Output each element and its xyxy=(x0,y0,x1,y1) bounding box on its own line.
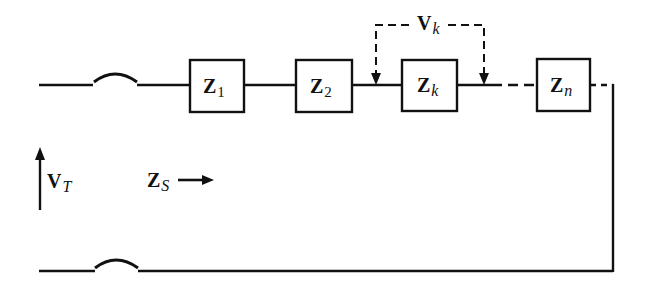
zs-symbol: Z xyxy=(147,169,160,191)
zs-subscript: S xyxy=(161,177,169,194)
zk-subscript: k xyxy=(431,82,438,99)
vt-symbol: V xyxy=(47,170,61,192)
circuit-wiring xyxy=(0,0,646,294)
zn-label: Zn xyxy=(550,75,572,95)
z1-symbol: Z xyxy=(203,75,216,97)
bottom-terminal-arc xyxy=(95,260,138,268)
vk-label: Vk xyxy=(417,13,440,33)
z2-symbol: Z xyxy=(310,75,323,97)
zs-arrow-icon xyxy=(202,175,214,185)
series-impedance-diagram: Z1 Z2 Zk Zn Vk VT ZS xyxy=(0,0,646,294)
vt-arrow-icon xyxy=(35,147,45,160)
top-terminal-arc xyxy=(94,74,137,82)
z1-subscript: 1 xyxy=(217,84,225,100)
z2-label: Z2 xyxy=(310,76,332,96)
z2-subscript: 2 xyxy=(324,84,332,100)
vk-bracket-left xyxy=(376,25,414,78)
vt-label: VT xyxy=(47,171,71,191)
vt-subscript: T xyxy=(62,178,71,195)
zk-label: Zk xyxy=(417,75,438,95)
zn-subscript: n xyxy=(564,82,572,99)
vk-symbol: V xyxy=(417,12,431,34)
zs-label: ZS xyxy=(147,170,169,190)
vk-right-arrowhead-icon xyxy=(479,73,489,85)
vk-subscript: k xyxy=(432,20,439,37)
vk-left-arrowhead-icon xyxy=(371,73,381,85)
zk-symbol: Z xyxy=(417,74,430,96)
z1-label: Z1 xyxy=(203,76,225,96)
vk-bracket-right xyxy=(448,25,484,78)
zn-symbol: Z xyxy=(550,74,563,96)
